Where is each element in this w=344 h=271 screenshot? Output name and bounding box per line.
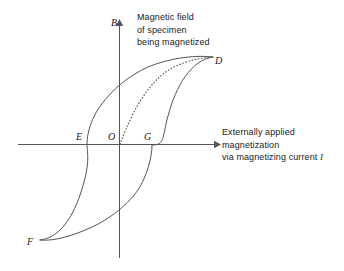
point-label-f: F [27,236,33,247]
x-axis-caption-line-3-text: via magnetizing current [222,152,320,162]
current-symbol: I [320,152,323,162]
y-axis-symbol: B [111,17,117,28]
point-label-o: O [108,131,115,142]
x-axis-caption-line-2: magnetization [222,139,323,152]
x-axis-caption-line-1: Externally applied [222,126,323,139]
hysteresis-diagram: B Magnetic field of specimen being magne… [0,0,344,271]
y-axis-caption-line-1: Magnetic field [137,11,210,24]
y-axis-caption-line-2: of specimen [137,24,210,37]
y-axis-caption-line-3: being magnetized [137,36,210,49]
point-label-e: E [76,131,82,142]
hysteresis-upper-branch [40,56,213,240]
x-axis-arrowhead [214,141,221,148]
point-label-g: G [144,131,151,142]
point-label-d: D [215,55,222,66]
x-axis-caption-line-3: via magnetizing current I [222,151,323,164]
hysteresis-lower-branch [40,57,213,240]
origin-dot [119,144,121,146]
x-axis-caption: Externally applied magnetization via mag… [222,126,323,164]
y-axis-caption: Magnetic field of specimen being magneti… [137,11,210,49]
initial-magnetization-curve [120,57,212,144]
